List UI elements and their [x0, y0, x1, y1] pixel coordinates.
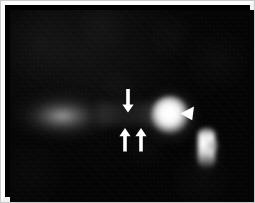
- arrowhead-marker: [177, 103, 197, 123]
- up-arrow-marker-left: [117, 127, 133, 153]
- microscopy-image-field: [10, 10, 255, 202]
- figure-frame: [0, 0, 255, 203]
- down-arrow-marker: [120, 88, 136, 114]
- figure-root: [0, 0, 255, 203]
- up-arrow-marker-right: [133, 127, 149, 153]
